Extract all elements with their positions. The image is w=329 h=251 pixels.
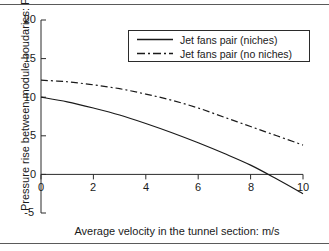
legend-sample-dashed-line: [136, 46, 174, 61]
legend-box: Jet fans pair (niches) Jet fans pair (no…: [128, 30, 310, 62]
y-axis-title: Pressure rise between module boudaries: …: [19, 15, 31, 211]
series-line-jet-fans-pair-niches: [41, 97, 303, 194]
legend-label-no-niches: Jet fans pair (no niches): [180, 48, 292, 60]
x-tick-label-0: 0: [29, 182, 53, 193]
figure-chart: 20 15 10 5 0 -5 0 2 4 6 8 10 Pressure ri…: [0, 0, 329, 251]
x-tick-label-8: 8: [239, 182, 263, 193]
legend-sample-solid-line: [136, 32, 174, 47]
series-line-jet-fans-pair-no-niches: [41, 80, 303, 145]
x-axis-title: Average velocity in the tunnel section: …: [41, 225, 313, 237]
legend-label-niches: Jet fans pair (niches): [180, 34, 277, 46]
x-tick-label-6: 6: [186, 182, 210, 193]
x-tick-label-2: 2: [81, 182, 105, 193]
legend-entry-no-niches: Jet fans pair (no niches): [129, 46, 311, 61]
legend-entry-niches: Jet fans pair (niches): [129, 32, 311, 47]
x-tick-label-10: 10: [291, 182, 315, 193]
x-tick-label-4: 4: [134, 182, 158, 193]
